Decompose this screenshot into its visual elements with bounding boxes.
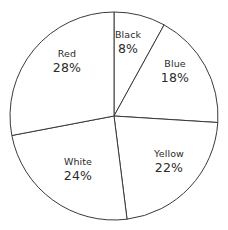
pie-chart-svg [0, 0, 228, 230]
pie-slice-red [10, 12, 114, 135]
pie-slices-group [10, 12, 218, 220]
pie-slice-yellow [114, 116, 218, 219]
pie-chart: Black8%Blue18%Yellow22%White24%Red28% [0, 0, 228, 230]
